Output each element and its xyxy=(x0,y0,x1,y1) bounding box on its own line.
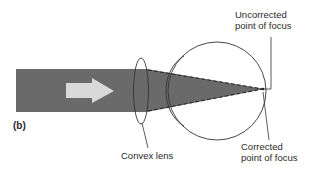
corrected-leader xyxy=(263,92,269,140)
corrected-line1: Corrected xyxy=(241,141,298,152)
uncorrected-focus-label: Uncorrected point of focus xyxy=(235,9,292,31)
uncorrected-line2: point of focus xyxy=(235,20,292,31)
uncorrected-leader xyxy=(263,37,271,89)
uncorrected-line1: Uncorrected xyxy=(235,9,292,20)
corrected-focus-label: Corrected point of focus xyxy=(241,141,298,163)
converging-cone xyxy=(147,69,264,112)
corrected-line2: point of focus xyxy=(241,152,298,163)
panel-label: (b) xyxy=(13,120,26,131)
convex-lens-label: Convex lens xyxy=(121,150,173,161)
lens-leader xyxy=(142,123,148,148)
